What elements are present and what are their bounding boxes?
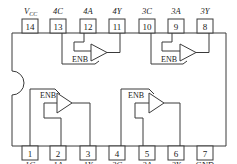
pin-label: GND (196, 160, 214, 164)
pin-number: 12 (84, 22, 93, 32)
top-pin-10: 10 3C (139, 6, 155, 33)
top-pin-8: 8 3Y (197, 6, 213, 33)
pin-number: 14 (26, 22, 36, 32)
pin-number: 10 (143, 22, 153, 32)
enable-label: ENB (72, 55, 88, 64)
pin-number: 1 (28, 149, 33, 159)
buffer-triangle-icon (180, 44, 196, 61)
pin-label: 1A (53, 160, 63, 164)
buffer-3: ENB (151, 33, 209, 64)
pin-number: 3 (86, 149, 91, 159)
pin-label: 2A (142, 160, 152, 164)
buffer-triangle-icon (91, 44, 107, 61)
pin-label: 4A (83, 6, 93, 16)
pin-number: 8 (203, 22, 208, 32)
pin-label: 3Y (200, 6, 211, 16)
buffer-2: ENB (121, 89, 180, 146)
pin-number: 9 (174, 22, 179, 32)
pin-label: 1Y (84, 160, 94, 164)
pin-number: 2 (56, 149, 61, 159)
pin-label: 4C (53, 6, 63, 16)
pin-label: 4Y (113, 6, 123, 16)
pin-label: 3C (141, 6, 152, 16)
bottom-pin-1: 1 1C (22, 146, 38, 164)
pin-number: 13 (54, 22, 64, 32)
pin-label: 2Y (172, 160, 182, 164)
pin-label-vcc: VCC (24, 6, 38, 17)
buffer-1: ENB (30, 89, 90, 146)
pin-number: 11 (113, 22, 122, 32)
bottom-pin-6: 6 2Y (168, 146, 184, 164)
pin-label: 3A (170, 6, 181, 16)
top-pin-14: 14 VCC (22, 6, 38, 33)
top-pin-13: 13 4C (50, 6, 66, 33)
top-pin-9: 9 3A (168, 6, 184, 33)
pin-number: 7 (203, 149, 208, 159)
top-pin-12: 12 4A (80, 6, 96, 33)
top-pin-11: 11 4Y (109, 6, 125, 33)
bottom-pin-3: 3 1Y (80, 146, 96, 164)
buffer-4: ENB (62, 33, 120, 64)
enable-label: ENB (128, 91, 144, 100)
buffer-triangle-icon (57, 93, 72, 113)
pin-number: 6 (174, 149, 179, 159)
pin-label: 2C (112, 160, 122, 164)
pin-label: 1C (25, 160, 35, 164)
enable-label: ENB (161, 55, 177, 64)
enable-label: ENB (40, 91, 56, 100)
pin-number: 5 (145, 149, 150, 159)
pin-number: 4 (115, 149, 120, 159)
bottom-pin-4: 4 2C (109, 146, 125, 164)
bottom-pin-5: 5 2A (139, 146, 155, 164)
bottom-pin-7: 7 GND (196, 146, 214, 164)
ic-pinout-diagram: 14 VCC 13 4C 12 4A 11 4Y 10 3C 9 3A 8 3Y… (0, 0, 237, 164)
bottom-pin-2: 2 1A (50, 146, 66, 164)
buffer-triangle-icon (149, 93, 164, 113)
